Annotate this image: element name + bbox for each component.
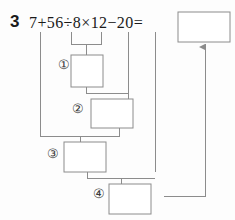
worksheet-problem: 3 7+56÷8×12−20= ① ② ③ ④ (0, 0, 235, 220)
connector-step1-to-step2 (86, 87, 128, 93)
step-box-3[interactable] (64, 142, 106, 172)
step-box-2[interactable] (91, 99, 133, 128)
answer-box[interactable] (178, 12, 230, 42)
connector-bracket-56-div-8 (71, 32, 101, 44)
connector-step2-to-step3 (40, 128, 119, 136)
flowchart-connectors (0, 0, 235, 220)
connector-step4-to-answer (164, 47, 205, 196)
connector-step3-to-step4 (87, 172, 155, 178)
step-box-1[interactable] (71, 55, 103, 87)
step-box-4[interactable] (109, 184, 151, 214)
